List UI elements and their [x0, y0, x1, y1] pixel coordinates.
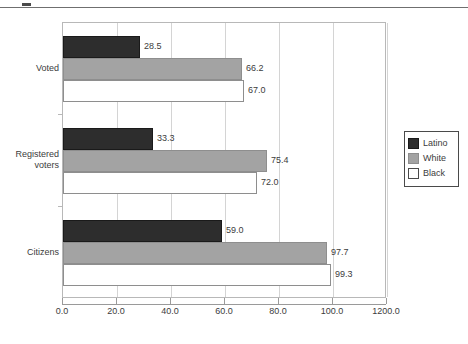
bar-citizens-black [63, 264, 331, 286]
category-label-registered-voters: Registeredvoters [1, 149, 59, 171]
legend-item-white: White [408, 151, 455, 166]
y-axis-tick [58, 206, 62, 207]
x-axis-tick [386, 298, 387, 304]
chart-screenshot: VotedRegisteredvotersCitizens 28.566.267… [0, 0, 468, 344]
bar-value-label: 75.4 [271, 156, 289, 165]
legend-label: Latino [423, 139, 448, 148]
x-axis-tick-label: 80.0 [269, 307, 287, 316]
category-label-voted: Voted [1, 63, 59, 74]
bar-value-label: 28.5 [144, 42, 162, 51]
bar-value-label: 97.7 [331, 248, 349, 257]
legend-item-latino: Latino [408, 136, 455, 151]
x-axis-tick-label: 20.0 [107, 307, 125, 316]
x-axis-tick [278, 298, 279, 304]
bar-registered-voters-latino [63, 128, 153, 150]
legend-swatch-white [408, 153, 419, 164]
x-axis-tick [170, 298, 171, 304]
x-axis-tick [224, 298, 225, 304]
bar-voted-latino [63, 36, 140, 58]
category-label-line: Citizens [1, 247, 59, 258]
bar-citizens-latino [63, 220, 222, 242]
x-axis-tick-label: 40.0 [161, 307, 179, 316]
x-axis-tick-label: 100.0 [321, 307, 344, 316]
bar-value-label: 66.2 [246, 64, 264, 73]
category-label-line: voters [1, 160, 59, 171]
x-axis-tick [116, 298, 117, 304]
category-label-citizens: Citizens [1, 247, 59, 258]
x-axis-line [62, 304, 386, 305]
x-axis-tick-label: 0.0 [56, 307, 69, 316]
top-divider-rule [0, 7, 468, 8]
y-axis-category-labels: VotedRegisteredvotersCitizens [0, 22, 59, 298]
bar-registered-voters-black [63, 172, 257, 194]
bar-citizens-white [63, 242, 327, 264]
legend-swatch-black [408, 168, 419, 179]
bar-voted-white [63, 58, 242, 80]
category-label-line: Voted [1, 63, 59, 74]
bar-value-label: 59.0 [226, 226, 244, 235]
legend-swatch-latino [408, 138, 419, 149]
gridline [387, 23, 388, 297]
legend-item-black: Black [408, 166, 455, 181]
bar-value-label: 99.3 [335, 270, 353, 279]
top-rule-artifact [22, 3, 31, 6]
x-axis-tick [332, 298, 333, 304]
x-axis-tick [62, 298, 63, 304]
bar-registered-voters-white [63, 150, 267, 172]
plot-area: 28.566.267.033.375.472.059.097.799.3 [62, 22, 386, 298]
x-axis-tick-label: 60.0 [215, 307, 233, 316]
legend-label: White [423, 154, 446, 163]
bar-voted-black [63, 80, 244, 102]
chart-legend: LatinoWhiteBlack [404, 131, 459, 187]
x-axis-tick-label: 1200.0 [372, 307, 400, 316]
bar-value-label: 72.0 [261, 178, 279, 187]
legend-label: Black [423, 169, 445, 178]
bar-value-label: 67.0 [248, 86, 266, 95]
category-label-line: Registered [1, 149, 59, 160]
y-axis-tick [58, 114, 62, 115]
bar-value-label: 33.3 [157, 134, 175, 143]
